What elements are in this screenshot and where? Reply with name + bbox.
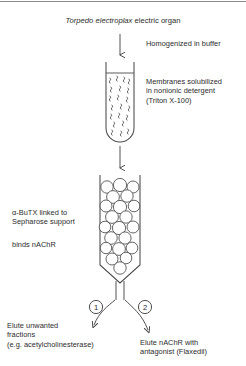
marker-1-text: 1 (94, 303, 98, 312)
test-tube (106, 62, 134, 142)
marker-circle-2: 2 (138, 300, 151, 313)
sepharose-beads (99, 178, 140, 274)
affinity-purification-diagram: Torpedo electroplax electric organ Homog… (0, 0, 246, 366)
diagram-vector-layer: 1 2 (0, 0, 246, 366)
membrane-squiggles (109, 76, 130, 136)
marker-2-text: 2 (143, 303, 147, 312)
marker-circle-1: 1 (89, 300, 102, 313)
